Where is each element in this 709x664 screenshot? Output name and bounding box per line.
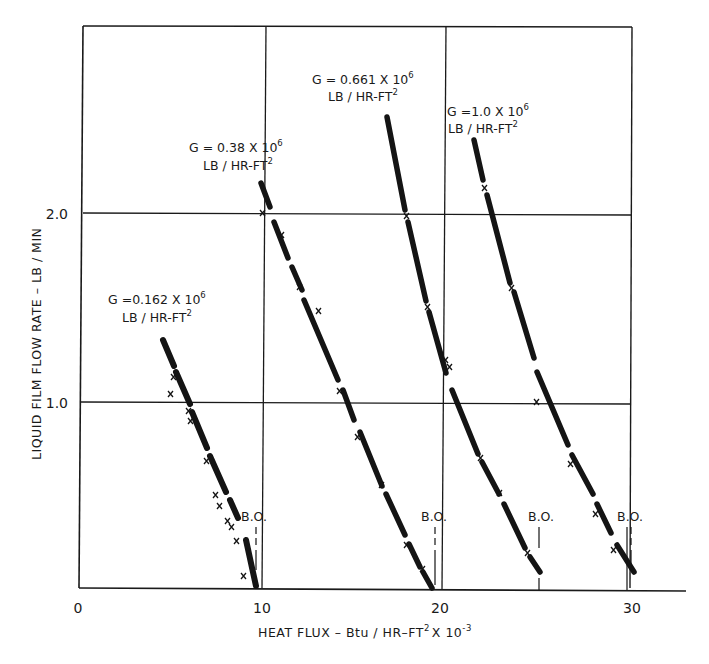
label-g-0661: G = 0.661 X 106 LB / HR-FT2	[312, 70, 414, 104]
bo-label-4: B.O.	[617, 509, 643, 524]
bo-label-3: B.O.	[528, 509, 554, 524]
curve-g-10	[474, 140, 634, 572]
svg-text:LB / HR-FT2: LB / HR-FT2	[328, 87, 398, 104]
x-axis-line	[79, 588, 686, 591]
y-axis-line	[79, 26, 83, 588]
series-labels: G =0.162 X 106 LB / HR-FT2 G = 0.38 X 10…	[108, 70, 529, 325]
gridline-x-10	[262, 26, 266, 588]
x-tick-0: 0	[74, 600, 83, 616]
points-g-0661	[404, 213, 530, 556]
svg-text:G = 0.661 X 106: G = 0.661 X 106	[312, 70, 414, 87]
gridline-y-2	[83, 213, 631, 215]
gridline-x-20	[442, 26, 446, 590]
svg-text:G =1.0 X 106: G =1.0 X 106	[447, 102, 529, 119]
bo-label-1: B.O.	[241, 509, 267, 524]
svg-text:G =0.162 X 106: G =0.162 X 106	[108, 290, 206, 307]
plot-frame	[79, 26, 686, 591]
points-g-0162	[168, 374, 246, 579]
curve-g-038	[261, 183, 432, 588]
series-curves	[163, 117, 634, 588]
label-g-038: G = 0.38 X 106 LB / HR-FT2	[189, 138, 283, 173]
y-tick-1: 1.0	[46, 395, 68, 411]
chart: 0 10 20 30 2.0 1.0 HEAT FLUX – Btu / HR–…	[0, 0, 709, 664]
y-axis-title: LIQUID FILM FLOW RATE – LB / MIN	[29, 228, 44, 460]
x-tick-20: 20	[431, 600, 449, 616]
svg-text:LB / HR-FT2: LB / HR-FT2	[448, 119, 518, 136]
curve-g-0162	[163, 340, 256, 586]
x-tick-30: 30	[623, 600, 641, 616]
bo-label-2: B.O.	[421, 509, 447, 524]
svg-text:LB / HR-FT2: LB / HR-FT2	[203, 156, 273, 173]
points-g-10	[482, 185, 616, 553]
svg-text:G = 0.38 X 106: G = 0.38 X 106	[189, 138, 283, 155]
x-tick-10: 10	[253, 600, 271, 616]
svg-text:LB / HR-FT2: LB / HR-FT2	[122, 308, 192, 325]
label-g-10: G =1.0 X 106 LB / HR-FT2	[447, 102, 529, 136]
curve-g-0661	[387, 117, 540, 572]
label-g-0162: G =0.162 X 106 LB / HR-FT2	[108, 290, 206, 325]
burnout-markers	[256, 527, 631, 590]
x-tick-labels: 0 10 20 30	[74, 600, 641, 616]
y-tick-2: 2.0	[46, 206, 68, 222]
x-axis-title: HEAT FLUX – Btu / HR–FT2X 10-3	[258, 623, 472, 640]
burnout-labels: B.O. B.O. B.O. B.O.	[241, 509, 643, 524]
y-tick-labels: 2.0 1.0	[46, 206, 68, 411]
